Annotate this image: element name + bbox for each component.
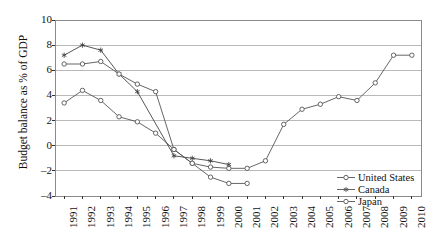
x-tick-label: 1998 [196,206,207,228]
x-tick-label: 1996 [160,206,171,228]
marker-circle [344,175,348,179]
x-tick-label: 1997 [178,206,189,228]
x-tick-label: 2009 [398,206,409,228]
x-tick-label: 1999 [215,206,226,228]
legend-item-canada[interactable]: Canada [336,184,414,195]
x-axis-tick-labels: 1991199219931994199519961997199819992000… [0,0,442,252]
legend-circle-icon [336,172,356,183]
marker-circle [344,199,348,203]
x-tick-label: 2004 [306,206,317,228]
x-tick-label: 2005 [324,206,335,228]
x-tick-label: 1991 [68,206,79,228]
x-tick-label: 2010 [416,206,427,228]
legend-label: Japan [356,196,382,207]
x-tick-label: 2001 [251,206,262,228]
legend-item-united-states[interactable]: United States [336,172,414,183]
x-tick-label: 2002 [269,206,280,228]
x-tick-label: 2006 [343,206,354,228]
x-tick-label: 2003 [288,206,299,228]
x-tick-label: 1994 [123,206,134,228]
legend-star-icon [336,184,356,195]
chart-legend: United StatesCanadaJapan [336,172,414,208]
x-tick-label: 1993 [105,206,116,228]
x-tick-label: 2007 [361,206,372,228]
legend-circle-icon [336,196,356,207]
legend-label: Canada [356,184,390,195]
legend-item-japan[interactable]: Japan [336,196,414,207]
x-tick-label: 2000 [233,206,244,228]
x-tick-label: 2008 [379,206,390,228]
x-tick-label: 1992 [86,206,97,228]
budget-balance-line-chart: Budget balance as % of GDP 1086420–2–4 1… [0,0,442,252]
x-tick-label: 1995 [141,206,152,228]
legend-label: United States [356,172,414,183]
